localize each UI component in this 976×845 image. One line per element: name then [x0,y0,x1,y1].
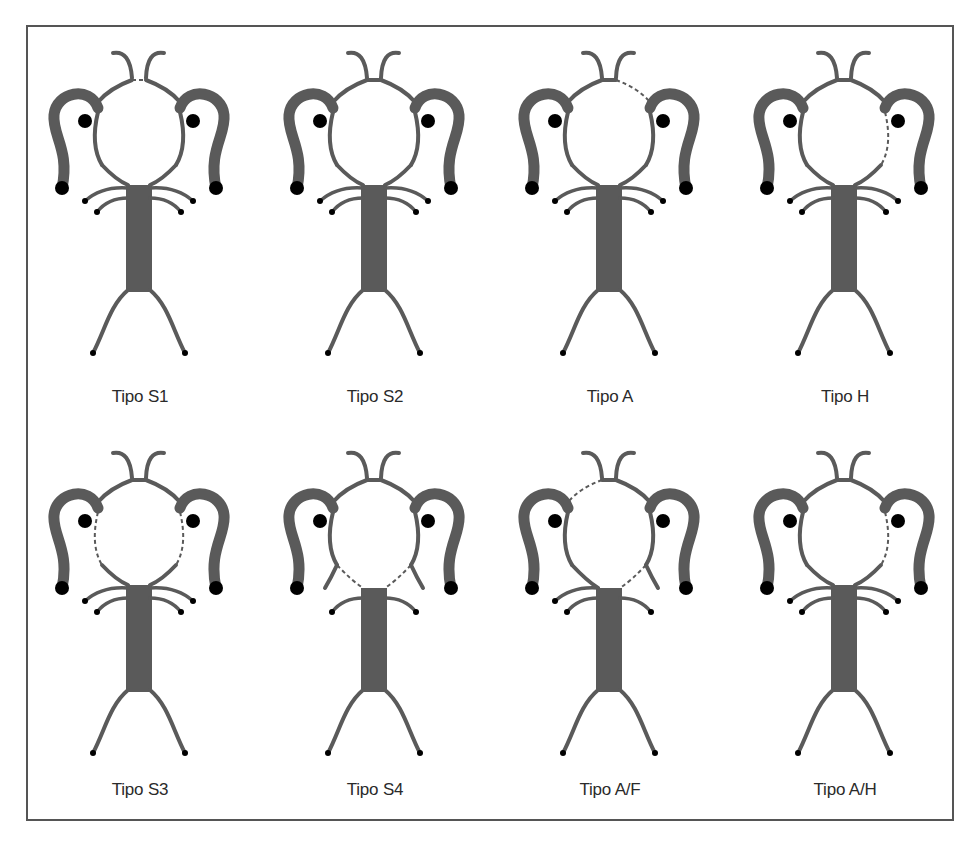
a1-left-segment [568,80,602,102]
aica-left-end-node [564,609,570,615]
aca-left-distal [113,453,132,478]
pcom-right-segment [176,512,183,565]
a1-right-segment [851,80,885,102]
pcom-left-segment [330,512,337,565]
ica-left [54,494,98,588]
panel-label: Tipo S2 [275,387,475,407]
sca-left-end-node [82,198,88,204]
ica-right-origin-node [679,581,693,595]
circle-of-willis-diagram [275,30,475,370]
ica-left-origin-node [55,581,69,595]
basilar-artery [831,585,857,692]
mca-right-node [421,114,435,128]
panel-label: Tipo A [510,387,710,407]
ica-right [650,494,694,588]
circle-of-willis-diagram [40,430,240,770]
vertebral-right [150,690,185,753]
vertebral-left [93,290,128,353]
aca-right-distal [616,453,634,478]
mca-left-node [313,114,327,128]
vertebral-right-end-node [887,350,893,356]
a1-right-segment [616,80,650,102]
aica-left-end-node [799,209,805,215]
diagram-panel-s4: Tipo S4 [275,430,475,820]
aica-left-branch [567,598,598,612]
aca-right-distal [851,53,869,78]
ica-left [289,494,333,588]
a1-right-segment [851,480,885,502]
vertebral-right [620,690,655,753]
basilar-artery [361,588,387,692]
aca-right-distal [381,453,399,478]
pcom-left-segment [95,512,102,565]
p1-left-segment [807,165,833,185]
aca-left-distal [348,53,367,78]
vertebral-right [855,290,890,353]
circle-of-willis-diagram [510,30,710,370]
vertebral-left-end-node [90,350,96,356]
a1-right-segment [616,480,650,502]
vertebral-right-end-node [182,750,188,756]
pcom-right-segment [646,112,653,165]
ica-left [289,94,333,188]
a1-left-segment [98,480,132,502]
p1-right-segment [150,565,176,585]
ica-right-origin-node [444,181,458,195]
circle-of-willis-diagram [40,30,240,370]
circle-of-willis-diagram [275,430,475,770]
pcom-left-segment [800,512,807,565]
ica-right-origin-node [209,181,223,195]
sca-left-end-node [82,598,88,604]
pcom-left-segment [330,112,337,165]
aica-left-end-node [94,609,100,615]
sca-left-end-node [787,598,793,604]
a1-right-segment [381,80,415,102]
vertebral-left [563,690,598,753]
p1-left-segment [102,565,128,585]
vertebral-left [563,290,598,353]
a1-left-segment [98,80,132,102]
a1-left-segment [568,480,602,502]
aca-right-distal [381,53,399,78]
aica-right-end-node [648,609,654,615]
vertebral-left-end-node [795,750,801,756]
aica-right-end-node [178,609,184,615]
p1-left-segment [337,165,363,185]
ica-left [759,94,803,188]
p1-left-segment [337,565,363,588]
aica-left-end-node [94,209,100,215]
aica-left-branch [332,598,363,612]
aica-left-end-node [329,209,335,215]
aica-right-branch [150,598,181,612]
ica-right [885,94,929,188]
vertebral-left-end-node [90,750,96,756]
ica-right-origin-node [209,581,223,595]
pcom-right-segment [411,512,418,565]
p1-right-segment [150,165,176,185]
vertebral-left [93,690,128,753]
fetal-pca-right [646,565,658,588]
sca-left-end-node [552,198,558,204]
a1-left-segment [333,480,367,502]
pcom-left-segment [800,112,807,165]
p1-left-segment [572,565,598,588]
sca-right-end-node [190,598,196,604]
mca-left-node [313,514,327,528]
aica-right-branch [385,198,416,212]
a1-right-segment [381,480,415,502]
sca-right-end-node [660,198,666,204]
sca-right-end-node [895,198,901,204]
fetal-pca-right [411,565,423,588]
p1-right-segment [620,165,646,185]
aica-right-branch [620,598,651,612]
aca-left-distal [818,453,837,478]
diagram-panel-ah: Tipo A/H [745,430,945,820]
panel-label: Tipo A/F [510,780,710,800]
aica-right-end-node [413,209,419,215]
panel-label: Tipo A/H [745,780,945,800]
p1-right-segment [385,565,411,588]
mca-left-node [783,514,797,528]
aca-right-distal [146,53,164,78]
diagram-panel-s3: Tipo S3 [40,430,240,820]
ica-right-origin-node [914,581,928,595]
